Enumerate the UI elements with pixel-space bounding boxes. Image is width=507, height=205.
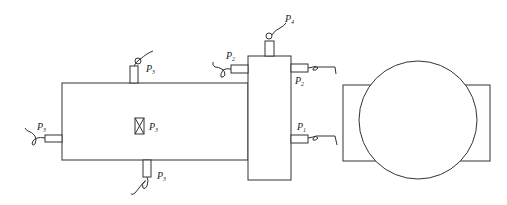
label-p3-bottom: P3 [156, 170, 166, 182]
label-p3-top: P3 [145, 63, 155, 75]
sensor-p4-top: P4 [265, 13, 294, 56]
label-p4: P4 [284, 13, 294, 25]
label-p2-right: P2 [294, 75, 304, 87]
sensor-p3-top: P3 [130, 51, 155, 83]
sensor-p3-bottom: P3 [131, 160, 166, 194]
process-diagram: P3 P3 P3 P3 P4 P2 P2 [0, 0, 507, 205]
motor-circle [359, 61, 477, 179]
sensor-p3-left: P3 [25, 121, 62, 145]
separator-column [248, 56, 291, 180]
sensor-p2-right: P2 [291, 64, 336, 87]
label-p3-left: P3 [36, 121, 46, 133]
sensor-p1-right: P1 [291, 121, 337, 145]
pump-motor [343, 61, 490, 179]
label-p1: P1 [296, 121, 306, 133]
sensor-p2-left: P2 [213, 50, 248, 77]
label-p2-left: P2 [225, 50, 235, 62]
